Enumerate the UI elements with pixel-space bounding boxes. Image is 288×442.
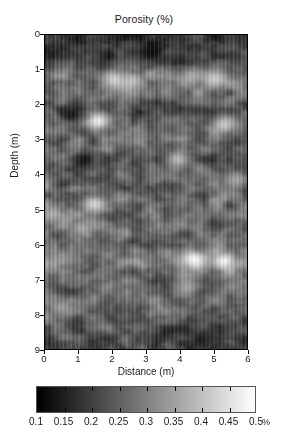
porosity-tomogram-figure: Porosity (%) 0123456789 0123456 Depth (m…	[0, 0, 288, 442]
x-axis-label: Distance (m)	[44, 366, 248, 377]
colorbar-tick-mark	[120, 408, 121, 412]
x-tick-label: 0	[34, 353, 54, 364]
y-tick-mark	[40, 245, 44, 246]
y-tick-mark	[40, 315, 44, 316]
y-tick-label: 1	[14, 63, 40, 74]
x-tick-label: 4	[170, 353, 190, 364]
y-tick-mark	[40, 104, 44, 105]
colorbar-tick-mark	[147, 408, 148, 412]
colorbar-tick-mark	[92, 387, 93, 391]
colorbar-tick-mark	[147, 387, 148, 391]
y-tick-mark	[40, 280, 44, 281]
y-tick-label: 5	[14, 204, 40, 215]
y-tick-mark	[40, 174, 44, 175]
colorbar-tick-mark	[175, 387, 176, 391]
colorbar-tick-mark	[65, 408, 66, 412]
x-tick-label: 2	[102, 353, 122, 364]
heatmap-plot-area	[44, 34, 248, 350]
y-tick-mark	[40, 139, 44, 140]
y-tick-label: 2	[14, 98, 40, 109]
y-axis-label: Depth (m)	[9, 116, 20, 196]
x-tick-label: 6	[238, 353, 258, 364]
colorbar-tick-mark	[120, 387, 121, 391]
colorbar-tick-mark	[202, 387, 203, 391]
y-tick-mark	[40, 34, 44, 35]
colorbar-tick-mark	[65, 387, 66, 391]
y-tick-label: 0	[14, 28, 40, 39]
x-tick-label: 5	[204, 353, 224, 364]
figure-title: Porosity (%)	[0, 13, 288, 25]
colorbar-tick-mark	[230, 408, 231, 412]
colorbar-tick-mark	[175, 408, 176, 412]
y-tick-mark	[40, 210, 44, 211]
y-tick-mark	[40, 69, 44, 70]
colorbar-tick-mark	[202, 408, 203, 412]
y-tick-label: 8	[14, 309, 40, 320]
colorbar	[36, 386, 256, 413]
colorbar-tick-label: 0.5	[236, 416, 276, 427]
colorbar-gradient-canvas	[37, 387, 255, 412]
colorbar-tick-labels: % 0.10.150.20.250.30.350.40.450.5	[0, 416, 288, 432]
y-tick-label: 6	[14, 239, 40, 250]
x-tick-label: 1	[68, 353, 88, 364]
porosity-heatmap-canvas	[45, 35, 247, 349]
colorbar-tick-mark	[230, 387, 231, 391]
colorbar-tick-mark	[92, 408, 93, 412]
x-tick-label: 3	[136, 353, 156, 364]
y-tick-label: 7	[14, 274, 40, 285]
